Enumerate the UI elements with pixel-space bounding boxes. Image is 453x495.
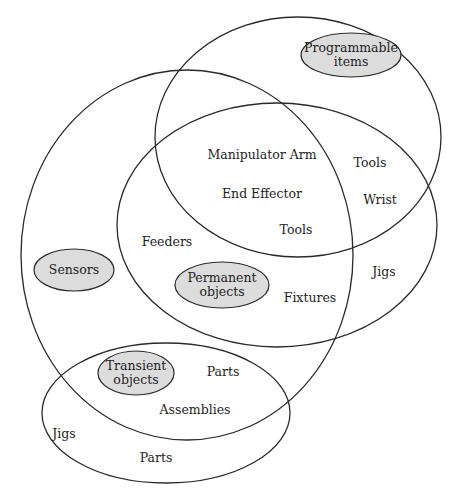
item-feeders: Feeders — [142, 235, 193, 249]
programmable-label-line2: items — [304, 55, 398, 69]
item-tools-programmable: Tools — [354, 156, 387, 170]
programmable-items-label: Programmable items — [304, 41, 398, 69]
item-tools-inner: Tools — [280, 223, 313, 237]
diagram-canvas — [0, 0, 453, 495]
programmable-label-line1: Programmable — [304, 41, 398, 55]
transient-label-line1: Transient — [106, 359, 167, 373]
permanent-objects-label: Permanent objects — [187, 271, 256, 299]
item-assemblies: Assemblies — [160, 403, 231, 417]
item-jigs-transient: Jigs — [52, 427, 75, 441]
sensors-label: Sensors — [49, 263, 99, 277]
permanent-label-line1: Permanent — [187, 271, 256, 285]
transient-objects-label: Transient objects — [106, 359, 167, 387]
permanent-label-line2: objects — [187, 285, 256, 299]
item-wrist: Wrist — [363, 193, 397, 207]
transient-label-line2: objects — [106, 373, 167, 387]
item-parts-upper: Parts — [207, 365, 240, 379]
item-fixtures: Fixtures — [284, 291, 337, 305]
permanent-set-outline — [117, 103, 437, 347]
item-manipulator-arm: Manipulator Arm — [207, 148, 316, 162]
item-parts-lower: Parts — [140, 451, 173, 465]
item-jigs-permanent: Jigs — [372, 265, 395, 279]
item-end-effector: End Effector — [222, 187, 302, 201]
venn-diagram: Programmable items Sensors Permanent obj… — [0, 0, 453, 495]
